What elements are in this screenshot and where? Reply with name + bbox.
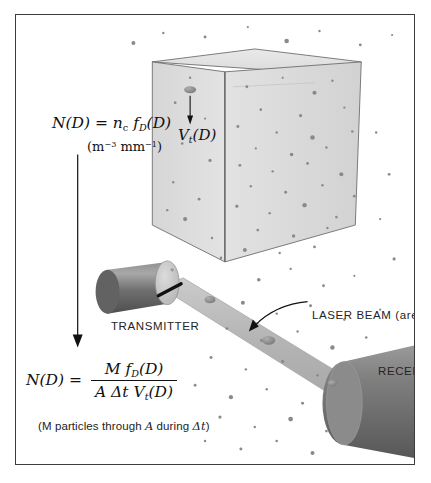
equation-bottom-equals: = xyxy=(69,371,82,389)
equation-top-coefficient: n xyxy=(113,114,123,132)
equation-top-equals: = xyxy=(95,114,108,132)
equation-bottom-note: (M particles through A during Δt) xyxy=(38,419,248,433)
equation-top-units: (m−3 mm−1) xyxy=(24,140,199,154)
equation-top-line: N(D) = nc fD(D) xyxy=(24,115,199,133)
note-middle: during xyxy=(153,420,192,432)
equation-bottom-fraction: M fD(D) A Δt Vt(D) xyxy=(91,360,177,401)
units-close: ) xyxy=(157,139,162,154)
equation-top-function-sub: D xyxy=(139,122,147,133)
laser-beam-label: LASER BEAM (area A) xyxy=(312,309,415,321)
receiver-label: RECEIVER xyxy=(378,365,415,377)
equation-top-coefficient-sub: c xyxy=(123,122,128,133)
note-suffix: ) xyxy=(206,420,210,432)
note-prefix: (M particles through xyxy=(38,420,145,432)
laser-callout-arrow xyxy=(249,302,308,332)
denominator-velocity: V xyxy=(133,383,144,401)
equation-top-lhs: N(D) xyxy=(52,114,90,132)
units-exponent-volume: −3 xyxy=(104,140,116,149)
numerator-argument: (D) xyxy=(139,360,164,378)
equation-bottom-lhs: N(D) xyxy=(26,371,64,389)
equation-top-argument: (D) xyxy=(147,114,172,132)
transmitter-unit xyxy=(96,261,182,314)
denominator-area: A xyxy=(95,383,106,401)
numerator-function-sub: D xyxy=(131,368,139,379)
units-exponent-diameter: −1 xyxy=(145,140,157,149)
transmitter-label: TRANSMITTER xyxy=(111,320,199,332)
units-mid: mm xyxy=(116,139,145,154)
receiver-unit xyxy=(322,345,414,457)
denominator-argument: (D) xyxy=(149,383,174,401)
equation-bottom: N(D) = M fD(D) A Δt Vt(D) xyxy=(26,360,206,401)
units-open: (m xyxy=(87,139,104,154)
terminal-velocity-symbol: V xyxy=(178,126,189,144)
terminal-velocity-label: Vt(D) xyxy=(178,126,216,145)
connector-arrow xyxy=(73,154,83,347)
figure-frame: N(D) = nc fD(D) (m−3 mm−1) N(D) = M fD(D… xyxy=(15,14,415,465)
note-time-symbol: Δt xyxy=(193,419,206,433)
numerator-count: M xyxy=(105,360,121,378)
fraction-numerator: M fD(D) xyxy=(91,360,177,380)
terminal-velocity-argument: (D) xyxy=(193,126,217,144)
denominator-time: Δt xyxy=(111,383,128,401)
fraction-denominator: A Δt Vt(D) xyxy=(91,380,177,402)
equation-top: N(D) = nc fD(D) (m−3 mm−1) xyxy=(24,115,199,153)
